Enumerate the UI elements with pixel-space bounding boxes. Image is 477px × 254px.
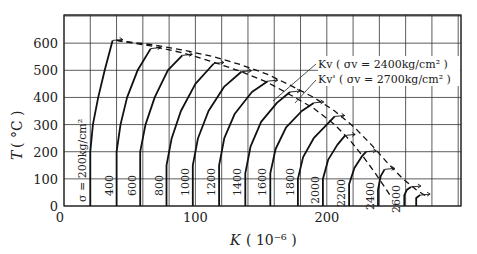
curve-label: 600: [126, 175, 139, 196]
y-axis-unit: ( °C ): [9, 110, 25, 148]
chart: 0100200300400500600 0100200 σ = 200kg/cm…: [0, 0, 477, 254]
y-tick-label: 100: [33, 172, 58, 187]
y-tick-label: 400: [33, 90, 58, 105]
curve-label: 1000: [179, 168, 192, 196]
y-tick-label: 200: [33, 145, 58, 160]
x-axis-ticks: 0100200: [56, 210, 339, 225]
curve-labels: σ = 200kg/cm²400600800100012001400160018…: [76, 119, 403, 213]
y-tick-label: 300: [33, 118, 58, 133]
x-tick-label: 200: [314, 210, 339, 225]
y-axis-title: T: [9, 149, 25, 160]
y-axis-ticks: 0100200300400500600: [33, 36, 58, 214]
curve-label: 2000: [309, 176, 322, 204]
curve-label: 2400: [364, 182, 377, 210]
curve-label: 800: [153, 175, 166, 196]
curve-label: 1600: [256, 168, 269, 196]
curve-label: σ = 200kg/cm²: [76, 119, 89, 202]
y-tick-label: 500: [33, 63, 58, 78]
curve-label: 1200: [205, 168, 218, 196]
arrow-icon: [345, 132, 355, 136]
legend-entry-kv: Kv ( σv = 2400kg/cm² ): [318, 58, 448, 71]
curve-label: 2600: [390, 185, 403, 213]
x-tick-label: 0: [56, 210, 64, 225]
arrow-icon: [335, 113, 345, 117]
curve-label: 1400: [231, 168, 244, 196]
y-tick-label: 600: [33, 36, 58, 51]
curve-label: 2200: [335, 179, 348, 207]
x-tick-label: 100: [183, 210, 208, 225]
x-axis-unit: ( 10⁻⁶ ): [246, 232, 297, 248]
arrow-icon: [290, 89, 300, 93]
curve-label: 1800: [284, 168, 297, 196]
stress-curve: [416, 195, 420, 206]
curve-label: 400: [103, 175, 116, 196]
x-axis-title: K: [229, 232, 242, 248]
legend-entry-kv-prime: Kv' ( σv = 2700kg/cm² ): [318, 73, 451, 86]
